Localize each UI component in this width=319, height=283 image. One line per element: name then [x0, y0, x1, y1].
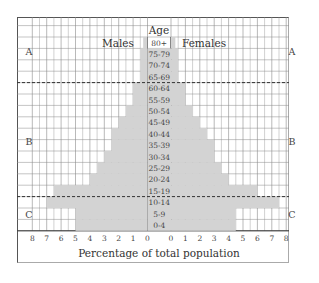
age-group-label: 55-59 — [148, 96, 170, 105]
age-group-label: 35-39 — [148, 141, 170, 150]
male-bar — [140, 48, 147, 59]
male-bar — [143, 37, 147, 48]
age-group-label: 65-69 — [148, 73, 170, 82]
female-bar — [171, 60, 178, 71]
x-tick-label: 5 — [73, 234, 78, 243]
zone-label-c-right: C — [288, 209, 295, 220]
zone-label-c-left: C — [25, 209, 32, 220]
age-group-label: 10-14 — [148, 198, 170, 207]
male-bar — [90, 174, 148, 185]
x-tick-label: 3 — [102, 234, 107, 243]
x-tick-label: 4 — [226, 234, 231, 243]
x-tick-label: 6 — [59, 234, 64, 243]
x-tick-label: 3 — [212, 234, 217, 243]
female-bar — [171, 48, 178, 59]
males-label: Males — [102, 37, 134, 49]
male-bar — [54, 185, 148, 196]
age-labels: 80+75-7970-7465-6960-6455-5950-5445-4940… — [148, 39, 170, 230]
female-bar — [171, 219, 236, 230]
male-bar — [119, 117, 148, 128]
female-bar — [171, 151, 214, 162]
x-axis-label: Percentage of total population — [78, 247, 240, 259]
male-bar — [140, 60, 147, 71]
age-group-label: 20-24 — [148, 175, 170, 184]
age-group-label: 40-44 — [148, 130, 170, 139]
x-tick-label: 6 — [255, 234, 260, 243]
x-tick-label: 8 — [30, 234, 35, 243]
x-tick-label: 1 — [183, 234, 188, 243]
male-bar — [76, 208, 148, 219]
x-tick-label: 0 — [145, 234, 150, 243]
female-bar — [171, 162, 221, 173]
x-tick-label: 2 — [197, 234, 202, 243]
age-header: Age — [148, 24, 170, 36]
x-tick-label: 0 — [169, 234, 174, 243]
age-group-label: 80+ — [151, 39, 167, 48]
female-bar — [171, 105, 193, 116]
male-bar — [47, 197, 148, 208]
x-axis-ticks: 876543210012345678 — [30, 234, 289, 243]
x-tick-label: 8 — [284, 234, 289, 243]
age-group-label: 70-74 — [148, 61, 170, 70]
x-tick-label: 5 — [241, 234, 246, 243]
female-bar — [171, 174, 229, 185]
female-bar — [171, 94, 185, 105]
zone-label-a-left: A — [25, 46, 33, 57]
x-tick-label: 7 — [269, 234, 274, 243]
age-group-label: 50-54 — [148, 107, 170, 116]
male-bar — [112, 140, 148, 151]
age-group-label: 0-4 — [153, 221, 165, 230]
zone-label-b-right: B — [289, 136, 296, 147]
zone-label-b-left: B — [26, 136, 33, 147]
female-bar — [171, 37, 175, 48]
male-bar — [97, 162, 147, 173]
females-label: Females — [182, 37, 226, 49]
female-bar — [171, 128, 207, 139]
age-group-label: 25-29 — [148, 164, 170, 173]
male-bar — [112, 128, 148, 139]
x-tick-label: 1 — [131, 234, 136, 243]
age-group-label: 15-19 — [148, 187, 170, 196]
male-bar — [126, 105, 148, 116]
female-bar — [171, 83, 185, 94]
male-bar — [133, 83, 147, 94]
population-pyramid-chart: 80+75-7970-7465-6960-6455-5950-5445-4940… — [0, 0, 319, 283]
female-bar — [171, 117, 200, 128]
age-group-label: 75-79 — [148, 50, 170, 59]
male-bar — [140, 71, 147, 82]
x-tick-label: 7 — [44, 234, 49, 243]
age-group-label: 60-64 — [148, 84, 170, 93]
female-bar — [171, 197, 279, 208]
zone-label-a-right: A — [288, 46, 296, 57]
male-bar — [76, 219, 148, 230]
age-group-label: 5-9 — [153, 210, 165, 219]
age-group-label: 45-49 — [148, 118, 170, 127]
x-tick-label: 4 — [88, 234, 93, 243]
x-tick-label: 2 — [116, 234, 121, 243]
male-bar — [104, 151, 147, 162]
female-bar — [171, 140, 214, 151]
female-bar — [171, 71, 178, 82]
female-bar — [171, 185, 257, 196]
female-bar — [171, 208, 236, 219]
male-bar — [133, 94, 147, 105]
age-group-label: 30-34 — [148, 153, 170, 162]
